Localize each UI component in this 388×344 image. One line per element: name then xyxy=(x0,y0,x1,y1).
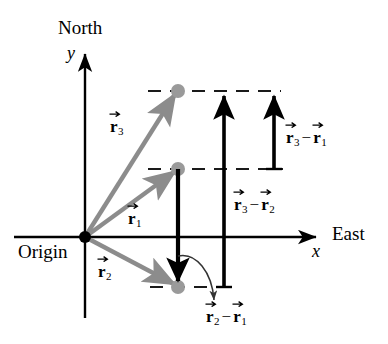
vector-symbol-r1: r xyxy=(313,129,321,146)
x-axis-label: x xyxy=(312,242,320,260)
vector-letter: r xyxy=(128,209,136,228)
vector-subscript: 1 xyxy=(136,217,142,229)
minus-operator: − xyxy=(248,195,262,214)
leader-line-r2-minus-r1 xyxy=(178,255,214,300)
vector-symbol-r3: r xyxy=(286,129,294,146)
vector-letter: r xyxy=(234,195,242,214)
vector-diagram-canvas xyxy=(0,0,388,344)
vector-subscript: 3 xyxy=(242,203,248,215)
minus-operator: − xyxy=(300,128,314,147)
north-label: North xyxy=(58,18,102,37)
vector-letter: r xyxy=(233,307,241,326)
vector-subscript: 1 xyxy=(321,136,327,148)
vector-symbol-r1: r xyxy=(233,308,241,325)
vector-symbol-r2: r xyxy=(261,196,269,213)
vector-subscript: 3 xyxy=(118,125,124,137)
origin-label: Origin xyxy=(18,242,68,261)
vector-label-r3-minus-r2: r3−r2 xyxy=(234,196,275,215)
vector-letter: r xyxy=(313,128,321,147)
endpoint-dot-r3 xyxy=(171,84,185,98)
vector-label-r3-minus-r1: r3−r1 xyxy=(286,129,327,148)
vector-subscript: 2 xyxy=(269,203,275,215)
minus-operator: − xyxy=(220,307,234,326)
vector-diagram-figure: North y East x Origin r3 r1 r2 r3−r1 r3−… xyxy=(0,0,388,344)
vector-letter: r xyxy=(261,195,269,214)
vector-label-r2: r2 xyxy=(98,263,112,282)
vector-letter: r xyxy=(98,262,106,281)
origin-dot xyxy=(79,231,91,243)
vector-symbol-r1: r xyxy=(128,210,136,227)
vector-subscript: 2 xyxy=(106,270,112,282)
vector-subscript: 2 xyxy=(214,315,220,327)
y-axis-label: y xyxy=(67,44,75,62)
vector-symbol-r3: r xyxy=(234,196,242,213)
vector-label-r3: r3 xyxy=(110,118,124,137)
vector-symbol-r3: r xyxy=(110,118,118,135)
vector-subscript: 3 xyxy=(294,136,300,148)
endpoint-dot-r2 xyxy=(171,280,185,294)
vector-label-r1: r1 xyxy=(128,210,142,229)
vector-symbol-r2: r xyxy=(206,308,214,325)
vector-subscript: 1 xyxy=(241,315,247,327)
vector-letter: r xyxy=(286,128,294,147)
east-label: East xyxy=(332,224,365,243)
vector-letter: r xyxy=(110,117,118,136)
vector-label-r2-minus-r1: r2−r1 xyxy=(206,308,247,327)
vector-letter: r xyxy=(206,307,214,326)
vector-symbol-r2: r xyxy=(98,263,106,280)
